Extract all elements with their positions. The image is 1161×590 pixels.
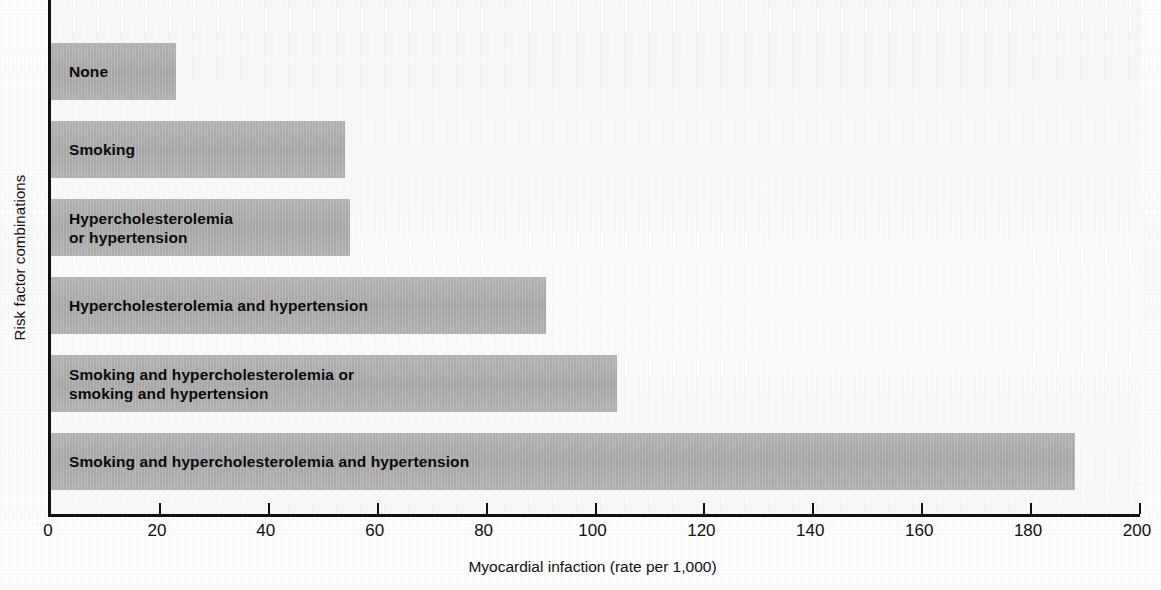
x-axis-tick-label: 60 [365,521,384,541]
bar-category-label: Hypercholesterolemia and hypertension [69,296,368,315]
x-axis-tick [703,503,705,514]
plot-area: NoneSmokingHypercholesterolemia or hyper… [48,0,1140,517]
bar-category-label: Smoking [69,140,135,159]
x-axis-tick-label: 0 [43,521,52,541]
x-axis-tick [486,503,488,514]
x-axis-tick [595,503,597,514]
x-axis-tick [377,503,379,514]
y-axis-title: Risk factor combinations [0,0,40,514]
x-axis-tick-label: 140 [796,521,824,541]
x-axis-tick-label: 80 [474,521,493,541]
x-axis-tick-label: 120 [687,521,715,541]
x-axis-tick [812,503,814,514]
bar-category-label: Smoking and hypercholesterolemia or smok… [69,365,354,403]
x-axis-tick [1139,503,1141,514]
x-axis-tick-label: 180 [1014,521,1042,541]
x-axis-tick-label: 100 [578,521,606,541]
x-axis-tick-label: 40 [256,521,275,541]
x-axis-tick-label: 20 [147,521,166,541]
bar-category-label: Hypercholesterolemia or hypertension [69,209,233,247]
x-axis-title: Myocardial infaction (rate per 1,000) [48,558,1137,576]
y-axis-title-text: Risk factor combinations [12,174,29,340]
x-axis-tick [159,503,161,514]
x-axis-tick [921,503,923,514]
chart-figure: Risk factor combinations NoneSmokingHype… [0,0,1161,590]
x-axis-tick [1030,503,1032,514]
bar-category-label: None [69,62,108,81]
bar-category-label: Smoking and hypercholesterolemia and hyp… [69,452,469,471]
x-axis-tick-label: 160 [905,521,933,541]
x-axis-tick-label: 200 [1123,521,1151,541]
x-axis-tick [268,503,270,514]
